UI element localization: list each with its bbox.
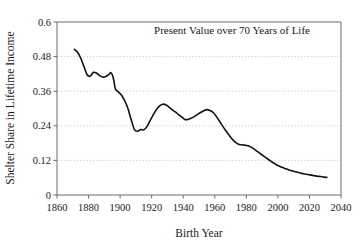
x-tick-label-6: 1980: [236, 202, 257, 213]
shelter-share-line-chart: 00.120.240.360.480.6 1860188019001920194…: [0, 0, 363, 244]
x-tick-label-9: 2040: [331, 202, 352, 213]
y-axis-title: Shelter Share in Lifetime Income: [4, 31, 16, 184]
x-tick-label-5: 1960: [204, 202, 225, 213]
x-tick-label-2: 1900: [110, 202, 131, 213]
y-tick-label-1: 0.12: [33, 155, 51, 166]
y-tick-label-4: 0.48: [33, 51, 51, 62]
x-tick-label-8: 2020: [299, 202, 320, 213]
x-tick-label-4: 1940: [173, 202, 194, 213]
x-tick-label-0: 1860: [47, 202, 68, 213]
chart-figure: 00.120.240.360.480.6 1860188019001920194…: [0, 0, 363, 244]
x-tick-label-3: 1920: [141, 202, 162, 213]
y-tick-label-3: 0.36: [33, 86, 51, 97]
x-tick-label-7: 2000: [267, 202, 288, 213]
x-axis-title: Birth Year: [175, 227, 222, 239]
y-tick-label-2: 0.24: [33, 120, 52, 131]
y-tick-label-5: 0.6: [38, 17, 51, 28]
chart-annotation: Present Value over 70 Years of Life: [154, 24, 310, 36]
y-tick-label-0: 0: [46, 190, 51, 201]
x-tick-label-1: 1880: [78, 202, 99, 213]
